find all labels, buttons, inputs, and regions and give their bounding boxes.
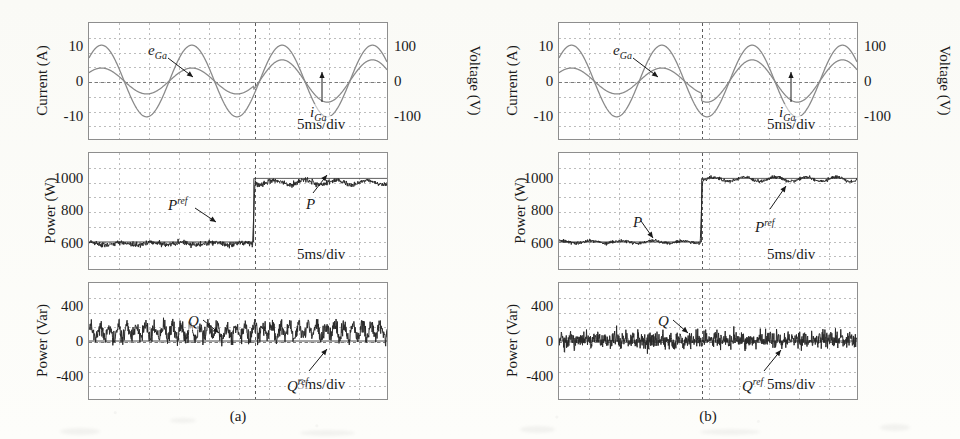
y-tick-label: 600 [531, 235, 553, 250]
annotation-label-a-q: Q [188, 313, 199, 330]
y-axis-title: Current (A) [34, 31, 51, 131]
timebase-label: 5ms/div [765, 246, 817, 263]
y-tick-label-right: -100 [394, 108, 421, 123]
y-tick-label: 400 [61, 299, 83, 314]
trace-P_ref [89, 178, 387, 242]
timebase-label: 5ms/div [765, 376, 817, 393]
panel-caption-a: (a) [208, 408, 268, 425]
annotation-label-a-p: P [306, 196, 315, 213]
subplot-a-mid: 1000800600Power (W)5ms/div [88, 152, 388, 270]
y-tick-label: 0 [76, 334, 83, 349]
annotation-label-b-iga: iGa [779, 104, 795, 123]
y-tick-label: 0 [546, 334, 553, 349]
y-tick-label: 600 [61, 235, 83, 250]
y-tick-label: 10 [538, 39, 553, 54]
figure-panel-a: 100-101000-100Current (A)Voltage (V)5ms/… [0, 0, 480, 439]
subplot-b-bot: 4000-400Power (Var)5ms/div [558, 282, 858, 400]
y-tick-label: 0 [76, 74, 83, 89]
y-axis-title: Power (W) [512, 161, 529, 261]
subplot-b-top: 100-101000-100Current (A)Voltage (V)5ms/… [558, 22, 858, 140]
y-tick-label: 800 [61, 203, 83, 218]
trace-e_Ga [89, 45, 387, 117]
y-tick-label: 800 [531, 203, 553, 218]
annotation-label-b-p: P [633, 214, 642, 231]
y-tick-label-right: 100 [394, 39, 416, 54]
y-tick-label-right: -100 [864, 108, 891, 123]
annotation-label-a-ega: eGa [148, 42, 167, 61]
annotation-label-b-qref: Qref [742, 377, 763, 395]
y-axis-title: Power (W) [42, 161, 59, 261]
trace-P [559, 175, 857, 245]
annotation-label-b-ega: eGa [613, 42, 632, 61]
subplot-a-bot: 4000-400Power (Var)5ms/div [88, 282, 388, 400]
y-tick-label: -10 [64, 108, 83, 123]
y-tick-label: -10 [534, 108, 553, 123]
panel-caption-b: (b) [678, 408, 738, 425]
annotation-label-a-pref: Pref [168, 196, 187, 214]
y-tick-label: -400 [56, 368, 83, 383]
y-tick-label: 10 [68, 39, 83, 54]
y-tick-label-right: 0 [394, 74, 401, 89]
trace-e_Ga [559, 45, 857, 117]
y-axis-title: Current (A) [504, 31, 521, 131]
trace-i_Ga [89, 60, 387, 102]
annotation-label-b-q: Q [658, 313, 669, 330]
y-axis-title: Power (Var) [34, 291, 51, 391]
trace-P [89, 177, 387, 248]
annotation-label-b-pref: Pref [755, 218, 774, 236]
annotation-label-a-iga: iGa [310, 104, 326, 123]
y-tick-label: -400 [526, 368, 553, 383]
y-tick-label-right: 100 [864, 39, 886, 54]
figure-panel-b: 100-101000-100Current (A)Voltage (V)5ms/… [480, 0, 960, 439]
timebase-label: 5ms/div [295, 246, 347, 263]
y-axis-title: Power (Var) [504, 291, 521, 391]
y-axis-title-right: Voltage (V) [936, 31, 953, 131]
y-tick-label: 400 [531, 299, 553, 314]
annotation-label-a-qref: Qref [287, 377, 308, 395]
trace-Q [559, 326, 857, 354]
y-tick-label-right: 0 [864, 74, 871, 89]
trace-P_ref [559, 178, 857, 242]
subplot-a-top: 100-101000-100Current (A)Voltage (V)5ms/… [88, 22, 388, 140]
trace-Q [89, 318, 387, 346]
trace-i_Ga [559, 60, 857, 102]
subplot-b-mid: 1000800600Power (W)5ms/div [558, 152, 858, 270]
y-tick-label: 0 [546, 74, 553, 89]
